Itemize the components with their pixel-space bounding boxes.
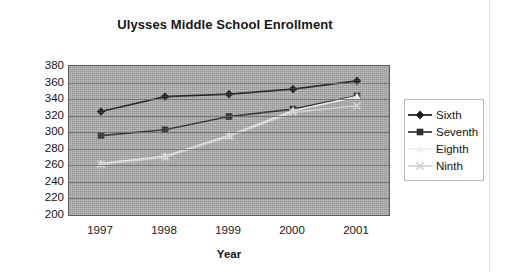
y-axis-tick-labels: 380360340320300280260240220200 — [22, 65, 64, 216]
legend-label: Seventh — [433, 126, 478, 138]
y-axis-tick: 220 — [24, 192, 64, 203]
y-axis-tick: 360 — [24, 77, 64, 88]
data-point-square — [98, 132, 105, 139]
legend-marker-diamond-icon — [407, 109, 433, 121]
x-axis-tick: 1997 — [77, 224, 123, 236]
data-point-diamond — [97, 107, 105, 116]
legend-marker-triangle-icon — [407, 143, 433, 155]
gridline — [69, 149, 389, 150]
legend-marker-square-icon — [407, 126, 433, 138]
gridline — [69, 198, 389, 199]
y-axis-tick: 260 — [24, 159, 64, 170]
legend-label: Eighth — [433, 143, 469, 155]
data-point-diamond — [225, 90, 233, 99]
plot-area — [68, 65, 390, 216]
gridline — [69, 165, 389, 166]
legend-label: Ninth — [433, 160, 463, 172]
gridline — [69, 83, 389, 84]
enrollment-line-chart: Ulysses Middle School Enrollment 3803603… — [0, 0, 514, 272]
data-point-diamond — [416, 110, 424, 119]
series-lines — [69, 66, 389, 215]
data-point-square — [417, 128, 424, 135]
gridline — [69, 99, 389, 100]
y-axis-tick: 300 — [24, 126, 64, 137]
gridline — [69, 116, 389, 117]
y-axis-tick: 240 — [24, 176, 64, 187]
gridline — [69, 132, 389, 133]
page-edge-line — [489, 0, 490, 272]
chart-legend: SixthSeventhEighthNinth — [404, 99, 484, 181]
y-axis-tick: 320 — [24, 110, 64, 121]
x-axis-title: Year — [68, 248, 390, 260]
legend-marker-x-icon — [407, 160, 433, 172]
y-axis-tick: 340 — [24, 93, 64, 104]
x-axis-tick: 1999 — [205, 224, 251, 236]
legend-item-eighth[interactable]: Eighth — [407, 140, 479, 157]
legend-label: Sixth — [433, 109, 462, 121]
legend-item-ninth[interactable]: Ninth — [407, 157, 479, 174]
x-axis-tick: 2000 — [269, 224, 315, 236]
y-axis-tick: 200 — [24, 209, 64, 220]
x-axis-tick: 2001 — [333, 224, 379, 236]
y-axis-tick: 280 — [24, 143, 64, 154]
x-axis-tick: 1998 — [141, 224, 187, 236]
x-axis-tick-labels: 19971998199920002001 — [68, 224, 390, 240]
data-point-diamond — [289, 85, 297, 94]
y-axis-tick: 380 — [24, 60, 64, 71]
chart-title: Ulysses Middle School Enrollment — [60, 17, 390, 32]
gridline — [69, 182, 389, 183]
legend-item-seventh[interactable]: Seventh — [407, 123, 479, 140]
legend-item-sixth[interactable]: Sixth — [407, 106, 479, 123]
